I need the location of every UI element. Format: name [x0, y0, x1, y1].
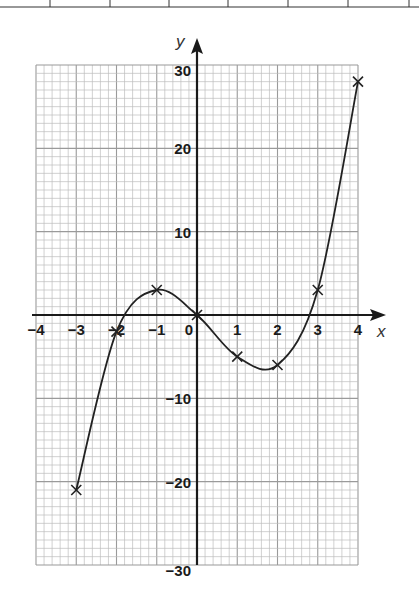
axes: [32, 38, 386, 565]
x-tick-label: 0: [185, 321, 193, 338]
y-tick-label: −20: [166, 474, 191, 491]
x-tick-label: −4: [27, 321, 45, 338]
y-tick-label: 20: [174, 140, 191, 157]
tick-labels: −4−3−2−101234302010−10−20−30: [27, 62, 362, 579]
x-tick-label: 1: [233, 321, 241, 338]
x-tick-label: 4: [354, 321, 363, 338]
x-tick-label: −3: [68, 321, 85, 338]
x-axis-label: x: [376, 322, 386, 341]
y-tick-label: 10: [174, 224, 191, 241]
cubic-graph: −4−3−2−101234302010−10−20−30 x y: [0, 0, 419, 605]
y-tick-label: −10: [166, 390, 191, 407]
y-tick-label: 30: [174, 62, 191, 79]
y-tick-label: −30: [166, 562, 191, 579]
partial-table-edge: [0, 0, 419, 7]
x-tick-label: 2: [273, 321, 281, 338]
x-tick-label: −1: [148, 321, 165, 338]
x-tick-label: 3: [314, 321, 322, 338]
y-axis-label: y: [175, 32, 186, 51]
function-curve: [76, 82, 358, 490]
